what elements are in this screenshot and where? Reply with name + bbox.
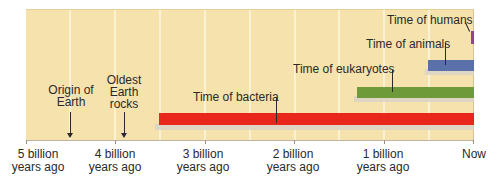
eukaryotes-bar	[357, 87, 474, 98]
axis-tick	[115, 140, 116, 144]
axis-tick	[205, 140, 206, 144]
tick-label-3-billion: 3 billion years ago	[163, 148, 243, 174]
tick-label-line: years ago	[343, 161, 423, 174]
origin-arrow-shaft	[70, 112, 71, 133]
tick-label-line: years ago	[0, 161, 78, 174]
axis-tick	[26, 140, 27, 144]
tick-label-now: Now	[434, 148, 498, 161]
origin-of-earth-label: Origin of Earth	[42, 84, 100, 108]
axis-tick	[473, 140, 474, 144]
label-line: Earth	[42, 96, 100, 108]
tick-label-4-billion: 4 billion years ago	[75, 148, 155, 174]
humans-label: Time of humans	[387, 14, 473, 27]
eukaryotes-leader-line	[392, 70, 393, 92]
label-line: rocks	[98, 98, 150, 110]
tick-label-line: Now	[434, 148, 498, 161]
animals-bar	[428, 60, 474, 71]
tick-label-line: years ago	[75, 161, 155, 174]
eukaryotes-label: Time of eukaryotes	[293, 63, 395, 76]
humans-bar	[471, 31, 474, 44]
axis-tick	[294, 140, 295, 144]
tick-label-2-billion: 2 billion years ago	[253, 148, 333, 174]
bacteria-leader-line	[276, 98, 277, 123]
oldest-earth-rocks-label: Oldest Earth rocks	[98, 74, 150, 110]
bacteria-label: Time of bacteria	[193, 91, 279, 104]
tick-label-line: years ago	[163, 161, 243, 174]
down-arrow-icon	[121, 133, 127, 138]
animals-label: Time of animals	[366, 38, 450, 51]
rocks-arrow-shaft	[124, 112, 125, 133]
tick-label-line: years ago	[253, 161, 333, 174]
animals-leader-line	[445, 43, 446, 65]
axis-tick	[384, 140, 385, 144]
down-arrow-icon	[67, 133, 73, 138]
time-axis	[26, 140, 474, 141]
tick-label-5-billion: 5 billion years ago	[0, 148, 78, 174]
bacteria-bar	[159, 113, 474, 125]
tick-label-1-billion: 1 billion years ago	[343, 148, 423, 174]
